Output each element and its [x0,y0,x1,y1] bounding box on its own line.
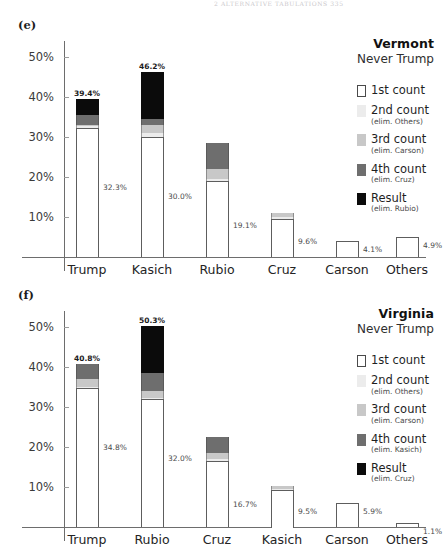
bar-segment-4 [76,364,99,379]
y-tick-mark [64,57,69,58]
legend-note: (elim. Carson) [371,147,426,156]
bar-segment-5 [76,99,99,114]
bar-carson[interactable] [336,241,359,257]
category-label-cruz: Cruz [203,532,231,547]
bar-segment-1 [206,461,229,528]
bar-others[interactable] [396,523,419,527]
bar-segment-3 [141,125,164,133]
legend-row: 1st count [357,84,434,97]
legend-row: Result(elim. Rubio) [357,192,434,214]
bar-total-label: 50.3% [139,316,165,325]
y-tick-mark [64,407,69,408]
y-axis-e [64,41,65,271]
legend-row: 2nd count(elim. Others) [357,374,434,396]
bar-rubio[interactable] [141,326,164,527]
legend-scenario-f: Never Trump [357,322,434,336]
category-label-trump: Trump [68,532,107,547]
bar-total-label: 40.8% [74,354,100,363]
y-tick-mark [64,177,69,178]
category-label-rubio: Rubio [199,262,234,277]
bar-carson[interactable] [336,503,359,527]
chart-panel-e: (e) 50%40%30%20%10% 39.4%32.3%46.2%30.0%… [0,18,444,280]
bar-segment-1 [206,181,229,257]
legend-swatch-icon [357,85,366,97]
chart-panel-f: (f) 50%40%30%20%10% 40.8%34.8%50.3%32.0%… [0,288,444,556]
y-tick-label: 30% [12,130,54,144]
y-tick-label: 50% [12,320,54,334]
legend-f: Virginia Never Trump 1st count2nd count(… [357,306,434,491]
bar-segment-1 [271,219,294,257]
legend-swatch-icon [357,375,366,387]
bar-segment-3 [141,391,164,398]
legend-items-e: 1st count2nd count(elim. Others)3rd coun… [357,84,434,214]
legend-swatch-icon [357,434,366,446]
bar-cruz[interactable] [206,437,229,527]
bar-first-count-label: 16.7% [233,500,257,509]
legend-scenario-e: Never Trump [357,52,434,66]
legend-swatch-icon [357,193,366,205]
bar-kasich[interactable] [271,486,294,527]
bar-segment-1 [76,128,99,257]
y-axis-f [64,311,65,541]
bar-segment-4 [206,143,229,169]
bar-trump[interactable] [76,364,99,527]
bar-kasich[interactable] [141,72,164,257]
category-label-cruz: Cruz [268,262,296,277]
bar-first-count-label: 30.0% [168,192,192,201]
bar-trump[interactable] [76,99,99,257]
bar-segment-3 [206,169,229,179]
bar-segment-1 [336,503,359,527]
y-tick-label: 30% [12,400,54,414]
legend-swatch-icon [357,105,366,117]
legend-state-name-e: Vermont [357,36,434,51]
legend-swatch-icon [357,134,366,146]
bar-first-count-label: 32.3% [103,183,127,192]
legend-row: 4th count(elim. Kasich) [357,433,434,455]
bar-segment-1 [336,241,359,257]
bar-others[interactable] [396,237,419,257]
bar-segment-4 [141,373,164,391]
legend-row: 1st count [357,354,434,367]
y-tick-label: 10% [12,210,54,224]
legend-row: 4th count(elim. Cruz) [357,163,434,185]
bar-cruz[interactable] [271,213,294,257]
legend-swatch-icon [357,355,366,367]
legend-note: (elim. Others) [371,118,429,127]
y-tick-mark [64,97,69,98]
bar-first-count-label: 19.1% [233,221,257,230]
bar-segment-1 [141,399,164,527]
legend-row: 2nd count(elim. Others) [357,104,434,126]
legend-e: Vermont Never Trump 1st count2nd count(e… [357,36,434,221]
legend-row: 3rd count(elim. Carson) [357,133,434,155]
legend-swatch-icon [357,404,366,416]
bar-total-label: 46.2% [139,62,165,71]
category-label-others: Others [386,262,428,277]
legend-label: 4th count [371,163,426,176]
bar-first-count-label: 4.9% [423,241,442,250]
bar-rubio[interactable] [206,143,229,257]
bar-segment-4 [206,437,229,453]
bar-first-count-label: 5.9% [363,507,382,516]
y-tick-label: 10% [12,480,54,494]
bar-segment-1 [76,388,99,527]
y-tick-label: 40% [12,360,54,374]
legend-row: Result(elim. Cruz) [357,462,434,484]
legend-label: 2nd count [371,374,429,387]
legend-label: 4th count [371,433,426,446]
bar-first-count-label: 32.0% [168,454,192,463]
bar-segment-1 [271,490,294,528]
bar-total-label: 39.4% [74,89,100,98]
legend-note: (elim. Cruz) [371,475,415,484]
bar-first-count-label: 4.1% [363,245,382,254]
bar-segment-1 [396,523,419,527]
category-label-trump: Trump [68,262,107,277]
bar-segment-5 [141,326,164,373]
category-label-rubio: Rubio [134,532,169,547]
legend-label: 2nd count [371,104,429,117]
y-tick-mark [64,137,69,138]
category-label-kasich: Kasich [132,262,172,277]
legend-label: 1st count [371,354,425,367]
bar-segment-1 [141,137,164,257]
page-running-header: 2 ALTERNATIVE TABULATIONS 335 [214,0,444,9]
bar-first-count-label: 9.5% [298,507,317,516]
